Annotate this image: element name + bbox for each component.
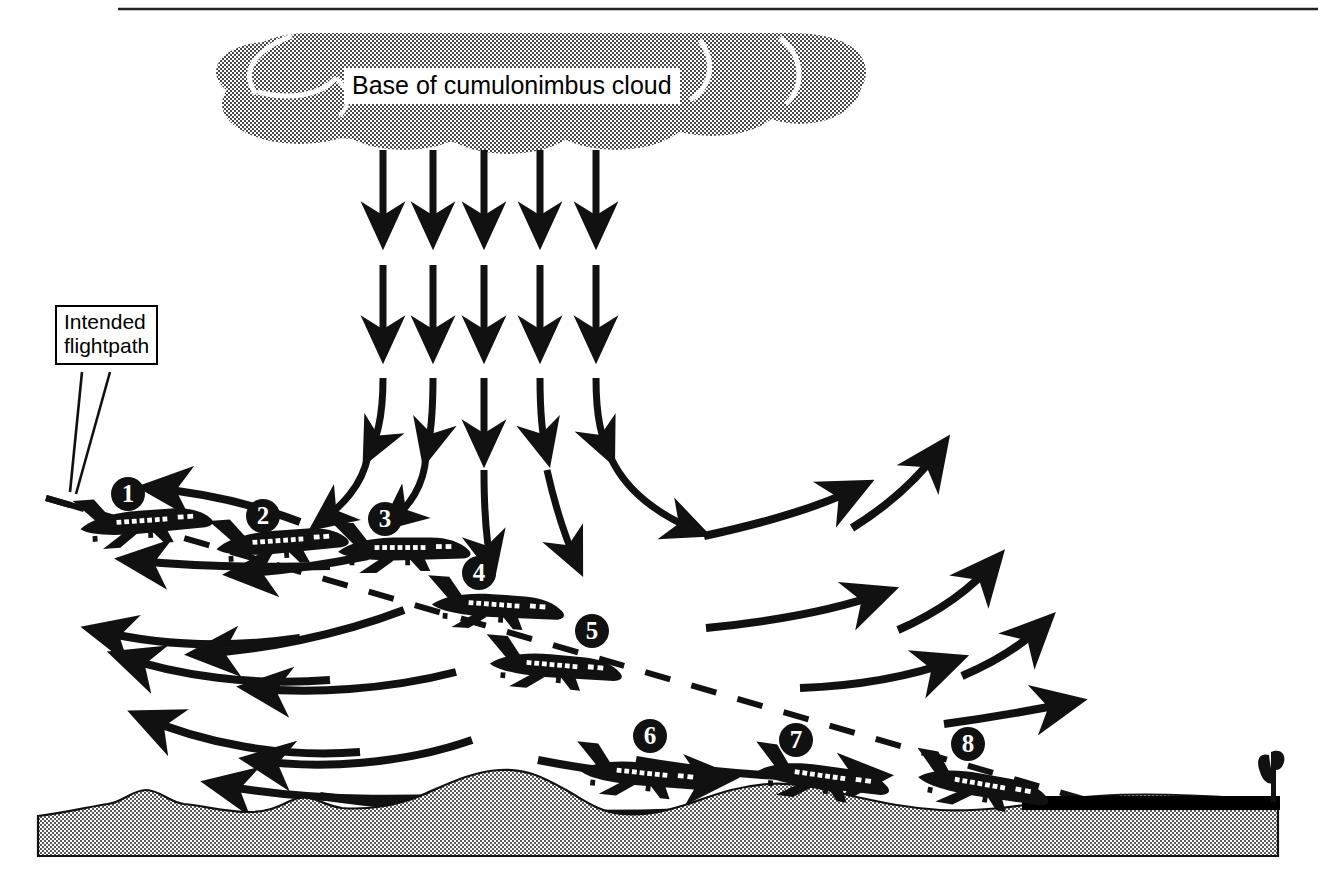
diagram-canvas: 1 2 3 4: [0, 0, 1331, 871]
microburst-diagram-svg: 1 2 3 4: [0, 0, 1331, 871]
aircraft-3-badge: 3: [368, 502, 402, 536]
runway: [1022, 796, 1280, 810]
aircraft-6-badge: 6: [633, 719, 667, 753]
aircraft-4-badge: 4: [462, 556, 496, 590]
aircraft-8-number: 8: [962, 730, 975, 757]
aircraft-8-badge: 8: [951, 727, 985, 761]
cloud-label: Base of cumulonimbus cloud: [344, 68, 680, 104]
aircraft-6-number: 6: [644, 722, 657, 749]
aircraft-4: 4: [425, 556, 566, 635]
aircraft-1-number: 1: [122, 480, 135, 507]
aircraft-5-badge: 5: [575, 614, 609, 648]
aircraft-7-badge: 7: [779, 723, 813, 757]
flightpath-leader-line: [70, 372, 110, 494]
intended-flightpath-label: Intended flightpath: [55, 305, 158, 365]
aircraft-3-number: 3: [379, 505, 392, 532]
aircraft-7-number: 7: [790, 726, 803, 753]
aircraft-2-badge: 2: [246, 499, 280, 533]
aircraft-5: 5: [482, 614, 624, 696]
flightpath-label-line2: flightpath: [64, 334, 149, 358]
flightpath-label-line1: Intended: [64, 310, 149, 334]
aircraft-5-number: 5: [586, 617, 599, 644]
windsock: [1258, 751, 1284, 802]
downdraft-arrows: [368, 150, 610, 456]
aircraft-1-badge: 1: [111, 477, 145, 511]
aircraft-2-number: 2: [257, 502, 270, 529]
aircraft-4-number: 4: [473, 559, 486, 586]
